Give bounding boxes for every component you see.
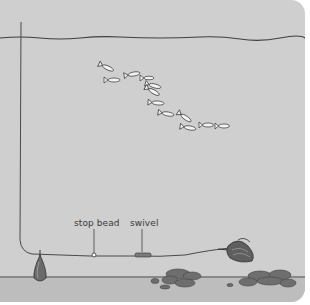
swivel-label: swivel [130,218,159,228]
stop-bead-label: stop bead [74,218,120,228]
swivel-icon [135,253,151,257]
diagram-panel: stop bead swivel [0,0,305,302]
rig-illustration [0,0,305,302]
fish-school [98,61,230,132]
water-surface-line [0,36,305,40]
seabed-rocks [151,269,296,289]
fishing-line-vertical [20,22,230,256]
stop-bead-icon [92,253,96,257]
bait-icon [218,238,253,262]
